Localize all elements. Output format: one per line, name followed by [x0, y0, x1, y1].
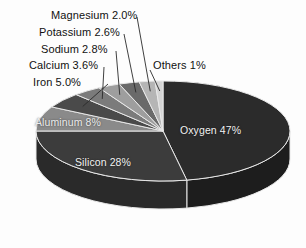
slice-label-aluminum: Aluminum 8% [35, 116, 101, 128]
slice-callout-label-magnesium: Magnesium 2.0% [51, 9, 137, 21]
slice-callout-label-calcium: Calcium 3.6% [29, 59, 98, 71]
slice-label-silicon: Silicon 28% [75, 156, 131, 168]
slice-callout-label-others: Others 1% [153, 59, 206, 71]
slice-callout-label-iron: Iron 5.0% [33, 76, 81, 88]
leader-line-magnesium [137, 17, 150, 91]
slice-callout-label-sodium: Sodium 2.8% [41, 43, 108, 55]
slice-callout-label-potassium: Potassium 2.6% [39, 26, 120, 38]
pie-chart: Magnesium 2.0% Potassium 2.6% Sodium 2.8… [0, 0, 306, 248]
slice-label-oxygen: Oxygen 47% [180, 124, 241, 136]
